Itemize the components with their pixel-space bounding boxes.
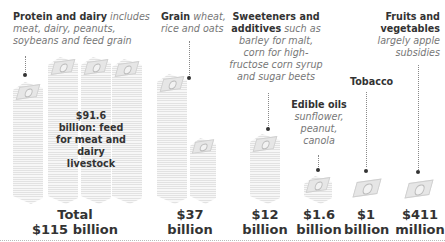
protein-dairy-label: Protein and dairy includes meat, dairy, … [13, 11, 153, 47]
baseline-divider [0, 240, 445, 241]
value-line: $411 [395, 208, 445, 223]
leader-line [366, 92, 367, 167]
leader-dot [187, 76, 191, 80]
leader-line [318, 155, 319, 169]
value-line: billion [344, 223, 388, 238]
value-line: $12 [240, 208, 290, 223]
leader-dot [316, 168, 320, 172]
edible-oils-value: $1.6 billion [295, 208, 343, 237]
money-stack-protein-1 [13, 82, 43, 204]
leader-dot [266, 127, 270, 131]
sweeteners-value: $12 billion [240, 208, 290, 237]
leader-dot [364, 169, 368, 173]
leader-dot [23, 73, 27, 77]
fruits-veg-label: Fruits and vegetables largely apple subs… [360, 11, 440, 59]
leader-line [268, 93, 269, 128]
value-line: billion [240, 223, 290, 238]
money-bill-icon [404, 180, 433, 199]
feed-annotation: $91.6 billion: feed for meat and dairy l… [56, 110, 126, 170]
money-stack-grain-1 [157, 74, 187, 204]
value-line: $115 billion [10, 223, 140, 238]
leader-line [418, 65, 419, 170]
category-desc: sunflower, peanut, canola [294, 111, 343, 146]
fruits-veg-value: $411 million [395, 208, 445, 237]
protein-dairy-value: Total $115 billion [10, 208, 140, 237]
value-line: $1.6 [295, 208, 343, 223]
value-line: billion [295, 223, 343, 238]
leader-line [189, 41, 190, 77]
value-line: $1 [344, 208, 388, 223]
category-name: Edible oils [291, 99, 347, 110]
category-name: Grain [161, 11, 190, 22]
tobacco-value: $1 billion [344, 208, 388, 237]
edible-oils-label: Edible oils sunflower, peanut, canola [290, 99, 348, 147]
tobacco-label: Tobacco [350, 76, 400, 88]
sweeteners-label: Sweeteners and additives such as barley … [227, 11, 325, 83]
grain-value: $37 billion [160, 208, 220, 237]
category-name: Protein and dairy [13, 11, 107, 22]
value-line: $37 [160, 208, 220, 223]
category-desc: largely apple subsidies [378, 35, 441, 58]
value-line: billion [160, 223, 220, 238]
category-name: Fruits and vegetables [380, 11, 440, 34]
leader-dot [416, 170, 420, 174]
value-line: Total [10, 208, 140, 223]
leader-line [25, 56, 26, 74]
money-bill-icon [352, 179, 381, 198]
category-name: Tobacco [350, 76, 393, 87]
value-line: million [395, 223, 445, 238]
